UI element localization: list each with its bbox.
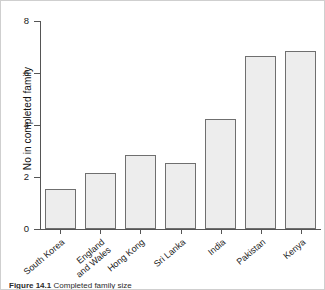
x-tick-mark — [221, 229, 222, 234]
y-tick-label: 4 — [0, 120, 29, 130]
bar — [85, 173, 116, 229]
y-tick-mark — [34, 177, 40, 178]
figure-caption-text: Completed family size — [53, 281, 131, 290]
x-tick-mark — [301, 229, 302, 234]
x-tick-mark — [60, 229, 61, 234]
bar — [45, 189, 76, 229]
bar — [165, 163, 196, 229]
figure-root: No in completed family 02468 South Korea… — [0, 0, 325, 290]
y-tick-mark — [34, 73, 40, 74]
y-tick-mark — [34, 229, 40, 230]
bar-chart-plot-area: No in completed family 02468 South Korea… — [1, 1, 325, 290]
bar — [245, 56, 276, 229]
y-tick-label: 6 — [0, 68, 29, 78]
y-tick-mark — [34, 21, 40, 22]
x-tick-mark — [181, 229, 182, 234]
figure-caption: Figure 14.1 Completed family size — [9, 281, 132, 290]
x-tick-mark — [140, 229, 141, 234]
y-tick-label: 8 — [0, 16, 29, 26]
bar — [285, 51, 316, 229]
x-tick-mark — [261, 229, 262, 234]
y-axis-line — [40, 21, 41, 229]
y-tick-mark — [34, 125, 40, 126]
y-tick-label: 2 — [0, 172, 29, 182]
bar — [205, 119, 236, 229]
figure-caption-number: Figure 14.1 — [9, 281, 51, 290]
y-tick-label: 0 — [0, 224, 29, 234]
x-tick-mark — [100, 229, 101, 234]
bar — [125, 155, 156, 229]
